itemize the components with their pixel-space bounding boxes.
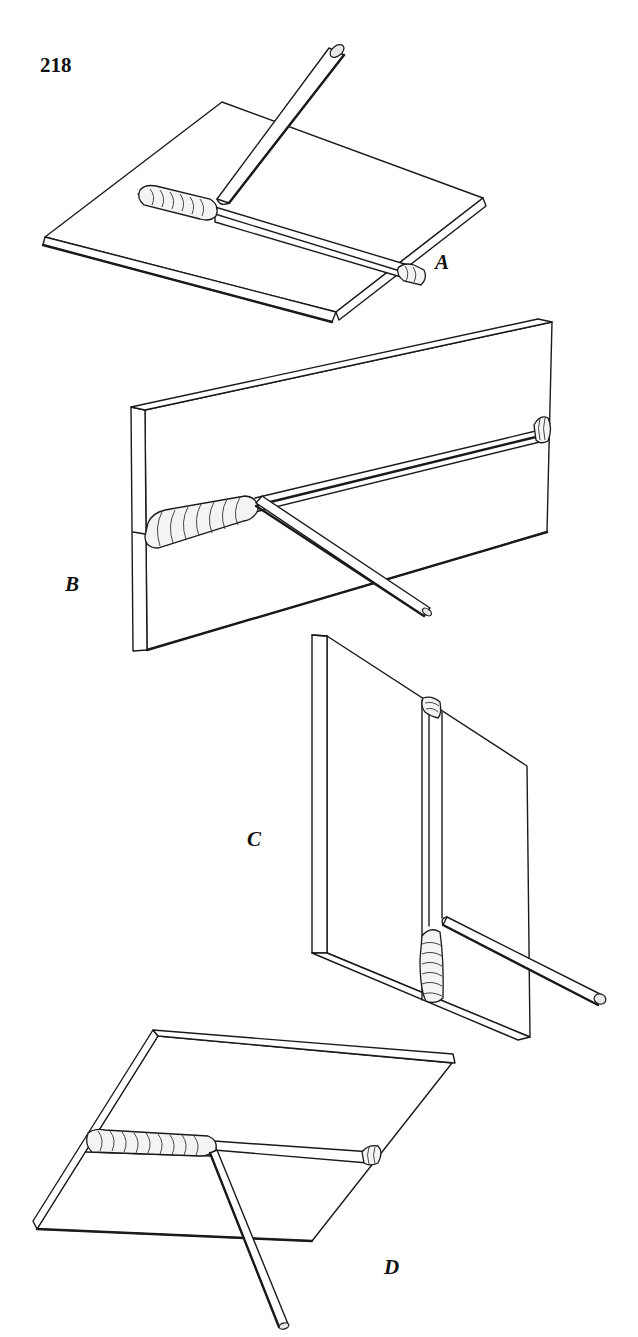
figure-b-drawing xyxy=(131,319,552,651)
figure-a-tack xyxy=(398,264,426,285)
figure-c-weld xyxy=(420,930,443,1003)
figure-b-tack xyxy=(534,417,551,443)
figure-d-drawing xyxy=(33,1030,455,1330)
figure-c-label: C xyxy=(247,827,261,852)
figure-c-drawing xyxy=(312,635,607,1040)
figure-d-label: D xyxy=(384,1255,399,1280)
figure-b-label: B xyxy=(65,572,79,597)
welding-positions-illustration xyxy=(0,0,638,1337)
figure-d-tack xyxy=(362,1146,381,1165)
figure-a-label: A xyxy=(435,250,449,275)
figure-a-drawing xyxy=(43,42,486,322)
